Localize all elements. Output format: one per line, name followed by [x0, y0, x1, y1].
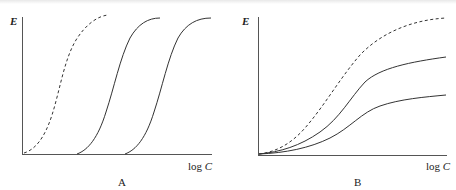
panel-b-x-axis-label: log C [426, 160, 450, 172]
chart-canvas [0, 0, 456, 190]
panel-b-x-var: C [443, 160, 450, 172]
panel-b-x-log: log [426, 160, 440, 172]
panel-a-x-log: log [188, 160, 202, 172]
panel-b-label: B [354, 176, 361, 188]
panel-a-dashed-curve [24, 15, 108, 153]
panel-a-curves [24, 15, 211, 154]
panel-b-solid-curve-1 [259, 57, 446, 154]
panel-a-x-axis-label: log C [188, 160, 212, 172]
panel-a-solid-curve-1 [77, 18, 160, 154]
panel-b-axes [258, 17, 447, 156]
panel-b-y-axis-label: E [242, 15, 249, 27]
panel-a-x-var: C [205, 160, 212, 172]
panel-b-solid-curve-2 [259, 95, 446, 154]
panel-a-y-axis-label: E [10, 15, 17, 27]
panel-b-curves [259, 18, 446, 154]
panel-a-label: A [118, 176, 126, 188]
panel-a-axes [22, 17, 212, 155]
panel-b-dashed-curve [259, 18, 446, 154]
panel-a-solid-curve-2 [125, 18, 211, 154]
